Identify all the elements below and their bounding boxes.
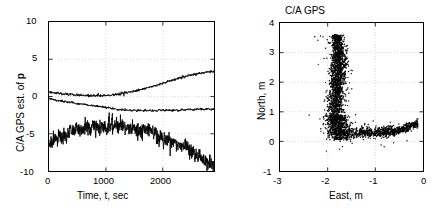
left-plot-panel: 10 5 0 -5 -10 0 1000 2000 Time, t, sec C…	[0, 0, 220, 212]
left-yaxis-label-vector-p: p	[15, 73, 26, 79]
left-yaxis-label: C/A GPS est. of p	[16, 73, 26, 152]
left-xtick-1000: 1000	[93, 176, 114, 186]
right-xtick-neg3: -3	[273, 176, 281, 186]
right-yaxis-label: North, m	[257, 82, 267, 120]
left-xtick-2000: 2000	[150, 176, 171, 186]
left-xtick-0: 0	[45, 176, 50, 186]
right-ytick-4: 4	[269, 18, 274, 28]
left-ytick-neg10: -10	[20, 167, 34, 177]
left-ytick-neg5: -5	[26, 129, 34, 139]
left-ytick-0: 0	[32, 91, 37, 101]
right-plot-title: C/A GPS	[285, 6, 325, 16]
left-ytick-10: 10	[26, 16, 37, 26]
left-plot-canvas	[49, 22, 214, 171]
right-ytick-neg1: -1	[263, 167, 271, 177]
right-plot-panel: C/A GPS 4 3 2 1 0 -1 -3 -2 -1 0 East, m …	[219, 0, 439, 212]
right-ytick-2: 2	[269, 77, 274, 87]
right-xtick-neg2: -2	[321, 176, 329, 186]
right-ytick-3: 3	[269, 47, 274, 57]
right-plot-canvas	[280, 23, 423, 171]
left-plot-axes	[48, 21, 215, 172]
left-xaxis-label: Time, t, sec	[77, 191, 128, 201]
right-ytick-0: 0	[269, 137, 274, 147]
right-xtick-0: 0	[421, 176, 426, 186]
left-ytick-5: 5	[32, 53, 37, 63]
right-xaxis-label: East, m	[329, 191, 363, 201]
figure-container: 10 5 0 -5 -10 0 1000 2000 Time, t, sec C…	[0, 0, 439, 212]
right-xtick-neg1: -1	[369, 176, 377, 186]
right-plot-axes	[279, 22, 424, 172]
left-yaxis-label-text: C/A GPS est. of	[15, 79, 26, 152]
right-ytick-1: 1	[269, 107, 274, 117]
